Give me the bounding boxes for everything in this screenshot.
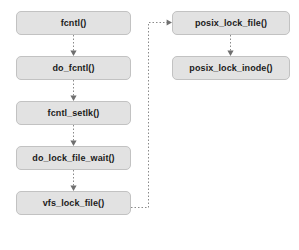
- node-fcntl-setlk[interactable]: fcntl_setlk(): [16, 101, 131, 125]
- node-do-lock-file-wait[interactable]: do_lock_file_wait(): [16, 146, 131, 170]
- node-posix-lock-inode[interactable]: posix_lock_inode(): [172, 56, 290, 80]
- node-do-fcntl[interactable]: do_fcntl(): [16, 56, 131, 80]
- edge-do-fcntl-to-fcntl-setlk: [70, 80, 76, 101]
- edge-posix-lock-file-to-posix-lock-inode: [227, 35, 233, 56]
- node-fcntl[interactable]: fcntl(): [16, 11, 131, 35]
- node-fcntl-setlk-label: fcntl_setlk(): [48, 108, 100, 117]
- edge-vfs-lock-file-to-posix-lock-file: [131, 19, 172, 207]
- edge-do-lock-file-wait-to-vfs-lock-file: [70, 170, 76, 191]
- edge-fcntl-to-do-fcntl: [70, 35, 76, 56]
- node-do-fcntl-label: do_fcntl(): [53, 63, 95, 72]
- flowchart-diagram: fcntl() do_fcntl() fcntl_setlk() do_lock…: [0, 0, 299, 250]
- node-vfs-lock-file-label: vfs_lock_file(): [43, 198, 105, 207]
- node-posix-lock-file-label: posix_lock_file(): [195, 18, 267, 27]
- node-posix-lock-inode-label: posix_lock_inode(): [189, 63, 272, 72]
- node-posix-lock-file[interactable]: posix_lock_file(): [172, 11, 290, 35]
- edge-fcntl-setlk-to-do-lock-file-wait: [70, 125, 76, 146]
- node-vfs-lock-file[interactable]: vfs_lock_file(): [16, 191, 131, 215]
- node-fcntl-label: fcntl(): [61, 18, 87, 27]
- node-do-lock-file-wait-label: do_lock_file_wait(): [32, 153, 114, 162]
